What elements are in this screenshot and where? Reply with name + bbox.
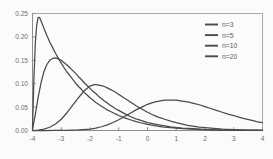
curve-n20 <box>33 100 263 130</box>
y-tick-label-3: 0.15 <box>15 57 28 64</box>
x-tick-label-6: 2 <box>203 135 207 142</box>
legend-label-0: n=3 <box>222 21 234 28</box>
x-tick-label-7: 3 <box>232 135 236 142</box>
legend: n=3n=5n=10n=20 <box>205 21 238 60</box>
legend-label-3: n=20 <box>222 53 238 60</box>
curve-n10 <box>33 85 263 131</box>
x-tick-label-1: -3 <box>58 135 64 142</box>
y-tick-label-0: 0.00 <box>15 127 28 134</box>
x-tick-label-2: -2 <box>87 135 93 142</box>
x-tick-label-4: 0 <box>146 135 150 142</box>
legend-label-1: n=5 <box>222 32 234 39</box>
y-tick-label-4: 0.20 <box>15 33 28 40</box>
density-plot: -4-3-2-101234 0.000.050.100.150.200.25 n… <box>0 0 273 159</box>
y-axis-labels: 0.000.050.100.150.200.25 <box>15 10 28 134</box>
y-tick-label-5: 0.25 <box>15 10 28 17</box>
legend-label-2: n=10 <box>222 42 238 49</box>
y-tick-label-1: 0.05 <box>15 104 28 111</box>
curve-n5 <box>33 58 263 130</box>
x-tick-label-3: -1 <box>116 135 122 142</box>
y-tick-label-2: 0.10 <box>15 80 28 87</box>
chart-figure: -4-3-2-101234 0.000.050.100.150.200.25 n… <box>0 0 273 159</box>
x-axis-labels: -4-3-2-101234 <box>30 135 265 142</box>
x-tick-label-5: 1 <box>174 135 178 142</box>
x-tick-label-0: -4 <box>30 135 36 142</box>
x-tick-label-8: 4 <box>261 135 265 142</box>
